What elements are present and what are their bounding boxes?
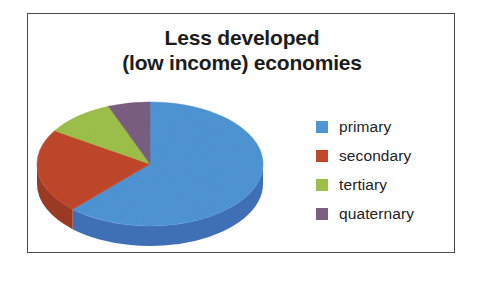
legend-swatch-secondary: [316, 150, 328, 162]
chart-title-line-1: Less developed: [28, 25, 456, 50]
chart-legend: primary secondary tertiary quaternary: [316, 112, 456, 228]
legend-label-secondary: secondary: [339, 147, 411, 164]
chart-frame: Less developed (low income) economies: [27, 13, 455, 253]
legend-swatch-tertiary: [316, 179, 328, 191]
legend-swatch-quaternary: [316, 208, 328, 220]
legend-item-secondary[interactable]: secondary: [316, 141, 456, 170]
pie-plot-area: [34, 86, 304, 248]
chart-screenshot: Less developed (low income) economies: [0, 0, 482, 282]
legend-label-primary: primary: [339, 118, 391, 135]
chart-title: Less developed (low income) economies: [28, 25, 456, 75]
legend-item-quaternary[interactable]: quaternary: [316, 199, 456, 228]
pie-top-faces: [37, 102, 263, 226]
legend-swatch-primary: [316, 121, 328, 133]
legend-label-tertiary: tertiary: [339, 176, 387, 193]
legend-label-quaternary: quaternary: [339, 205, 414, 222]
legend-item-primary[interactable]: primary: [316, 112, 456, 141]
chart-title-line-2: (low income) economies: [28, 50, 456, 75]
pie-chart-3d: [34, 86, 304, 248]
legend-item-tertiary[interactable]: tertiary: [316, 170, 456, 199]
